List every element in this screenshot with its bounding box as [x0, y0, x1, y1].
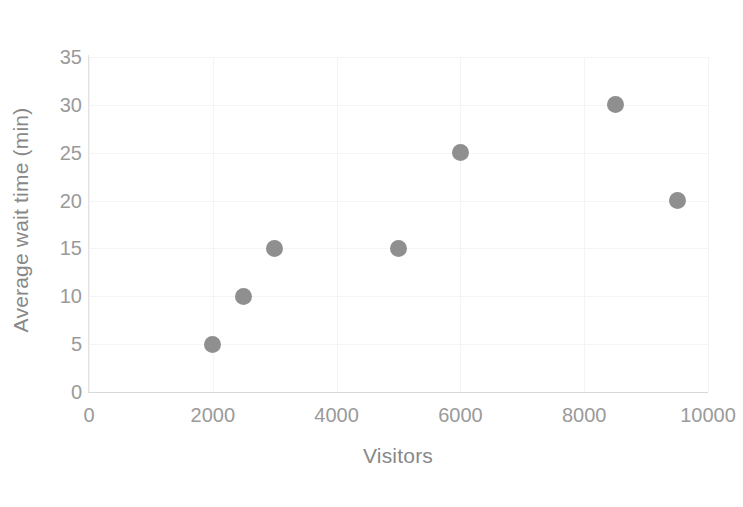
x-axis-tick-labels: 0200040006000800010000	[0, 0, 743, 507]
x-tick-label: 4000	[314, 404, 359, 427]
x-tick-label: 0	[83, 404, 94, 427]
x-tick-label: 8000	[562, 404, 607, 427]
x-tick-label: 2000	[191, 404, 236, 427]
x-axis-title: Visitors	[88, 444, 708, 468]
scatter-chart: 05101520253035 0200040006000800010000 Av…	[0, 0, 743, 507]
x-tick-label: 10000	[680, 404, 736, 427]
x-tick-label: 6000	[438, 404, 483, 427]
